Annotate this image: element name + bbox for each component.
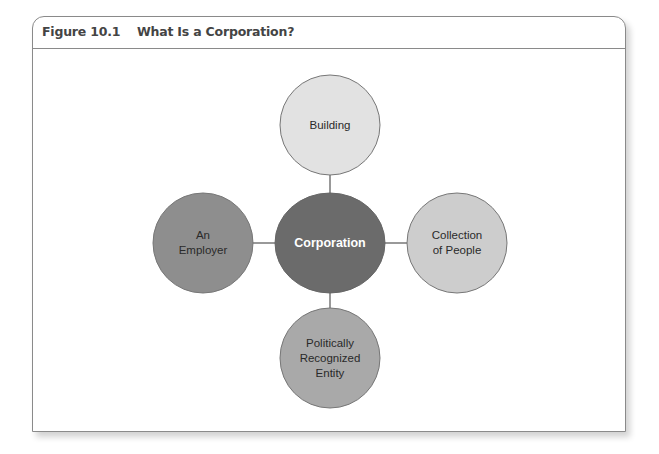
node-employer: An Employer [153, 193, 253, 293]
node-political-label-1: Politically [306, 337, 354, 349]
node-political-label-2: Recognized [300, 352, 361, 364]
node-collection-label-1: Collection [432, 229, 483, 241]
node-collection-of-people: Collection of People [407, 193, 507, 293]
node-building-label: Building [310, 119, 351, 131]
node-employer-label-2: Employer [179, 244, 228, 256]
node-employer-label-1: An [196, 229, 210, 241]
node-political-label-3: Entity [316, 367, 345, 379]
node-collection-label-2: of People [433, 244, 482, 256]
node-corporation: Corporation [275, 193, 385, 293]
concept-diagram: Building An Employer Collection of Peopl… [0, 0, 659, 454]
node-corporation-label: Corporation [294, 236, 366, 250]
node-political-entity: Politically Recognized Entity [280, 308, 380, 408]
node-building: Building [280, 75, 380, 175]
